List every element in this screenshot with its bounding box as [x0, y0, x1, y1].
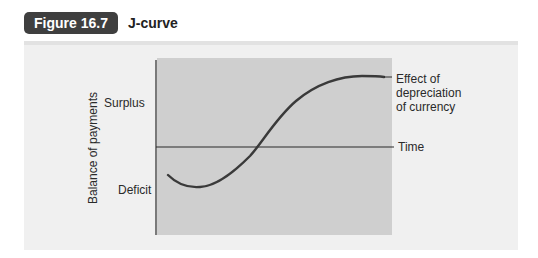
effect-label-line-1: Effect of: [396, 72, 461, 86]
effect-label-line-3: of currency: [396, 100, 461, 114]
j-curve-chart: [0, 0, 538, 258]
deficit-label: Deficit: [118, 183, 151, 197]
effect-label: Effect of depreciation of currency: [396, 72, 461, 114]
y-axis-label: Balance of payments: [86, 92, 100, 204]
time-label: Time: [398, 140, 424, 154]
effect-label-line-2: depreciation: [396, 86, 461, 100]
surplus-label: Surplus: [104, 96, 145, 110]
